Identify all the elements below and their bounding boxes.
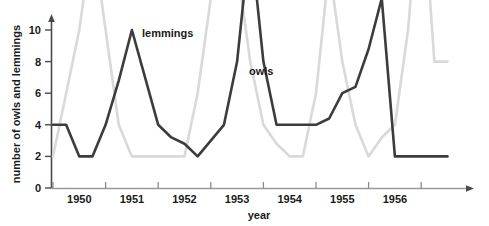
series-annotation-lemmings: lemmings — [142, 27, 193, 39]
y-axis — [48, 14, 55, 188]
series-annotation-owls: owls — [249, 65, 273, 77]
x-tick-label-1951: 1951 — [120, 193, 144, 205]
y-tick-label-4: 4 — [35, 119, 42, 131]
y-tick-label-0: 0 — [35, 182, 41, 194]
y-axis-title: number of owls and lemmings — [10, 25, 22, 183]
y-tick-label-6: 6 — [35, 87, 41, 99]
x-tick-label-1956: 1956 — [383, 193, 407, 205]
y-tick-label-2: 2 — [35, 150, 41, 162]
line-chart: 0 2 4 6 8 10 1950 1951 1952 1953 1954 19… — [0, 0, 489, 226]
x-axis-title: year — [248, 209, 271, 221]
x-tick-labels: 1950 1951 1952 1953 1954 1955 1956 — [67, 193, 407, 205]
x-tick-marks — [53, 182, 421, 189]
x-tick-label-1954: 1954 — [277, 193, 302, 205]
x-tick-label-1953: 1953 — [225, 193, 249, 205]
y-tick-label-8: 8 — [35, 56, 41, 68]
x-tick-label-1952: 1952 — [172, 193, 196, 205]
y-tick-label-10: 10 — [29, 24, 41, 36]
chart-container: 0 2 4 6 8 10 1950 1951 1952 1953 1954 19… — [0, 0, 489, 226]
x-tick-label-1955: 1955 — [330, 193, 354, 205]
y-tick-labels: 0 2 4 6 8 10 — [29, 24, 42, 194]
y-tick-marks — [45, 30, 52, 188]
x-tick-label-1950: 1950 — [67, 193, 91, 205]
